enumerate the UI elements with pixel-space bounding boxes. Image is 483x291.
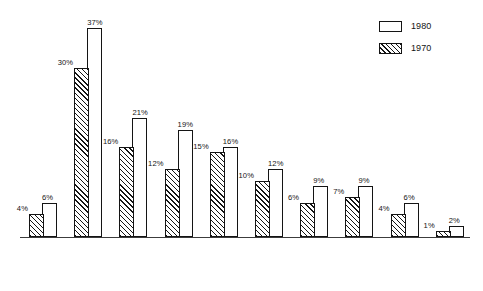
bar-value-label-1980: 6% <box>42 193 53 202</box>
bar-pair: 4%6% <box>22 22 67 237</box>
bar-1970 <box>300 203 315 237</box>
plot-area: 4%6%UnitedStates30%37%NewMexico16%21%Tex… <box>0 0 483 291</box>
bar-value-label-1970: 12% <box>148 159 164 168</box>
bar-1970 <box>210 152 225 237</box>
bar-pair: 16%21% <box>112 22 157 237</box>
bar-pair: 15%16% <box>203 22 248 237</box>
bar-1970 <box>255 181 270 237</box>
bar-chart: 1980 1970 4%6%UnitedStates30%37%NewMexic… <box>0 0 483 291</box>
bar-1970 <box>391 214 406 237</box>
bar-1980 <box>223 147 238 237</box>
bar-pair: 4%6% <box>384 22 429 237</box>
bar-1970 <box>74 68 89 237</box>
bar-1970 <box>436 231 451 237</box>
bar-value-label-1980: 6% <box>404 193 415 202</box>
bar-value-label-1970: 4% <box>17 204 28 213</box>
bar-1980 <box>449 226 464 237</box>
bar-1980 <box>358 186 373 237</box>
bar-pair: 1%2% <box>429 22 474 237</box>
bar-value-label-1980: 2% <box>449 216 460 225</box>
bar-value-label-1970: 30% <box>58 58 74 67</box>
bar-1980 <box>42 203 57 237</box>
bar-value-label-1970: 1% <box>424 221 435 230</box>
bar-pair: 30%37% <box>67 22 112 237</box>
bar-value-label-1970: 4% <box>378 204 389 213</box>
bar-value-label-1970: 6% <box>288 193 299 202</box>
bar-value-label-1970: 16% <box>103 137 119 146</box>
bar-value-label-1980: 21% <box>132 108 148 117</box>
bar-1980 <box>178 130 193 237</box>
bar-1980 <box>132 118 147 237</box>
bar-1970 <box>345 197 360 237</box>
bar-value-label-1970: 15% <box>193 142 209 151</box>
bar-1980 <box>404 203 419 237</box>
x-axis-line <box>20 237 470 238</box>
bar-value-label-1980: 16% <box>223 137 239 146</box>
bar-1970 <box>29 214 44 237</box>
bar-1980 <box>268 169 283 237</box>
bar-pair: 6%9% <box>293 22 338 237</box>
bar-value-label-1970: 7% <box>333 187 344 196</box>
bar-pair: 7%9% <box>338 22 383 237</box>
bar-1980 <box>313 186 328 237</box>
bar-value-label-1980: 9% <box>313 176 324 185</box>
bar-value-label-1980: 12% <box>268 159 284 168</box>
bar-value-label-1980: 37% <box>87 18 103 27</box>
bar-1970 <box>119 147 134 237</box>
bar-1970 <box>165 169 180 237</box>
bar-1980 <box>87 28 102 237</box>
bar-value-label-1980: 19% <box>178 120 194 129</box>
bar-value-label-1970: 10% <box>239 171 255 180</box>
bar-pair: 12%19% <box>158 22 203 237</box>
bar-pair: 10%12% <box>248 22 293 237</box>
bar-value-label-1980: 9% <box>358 176 369 185</box>
